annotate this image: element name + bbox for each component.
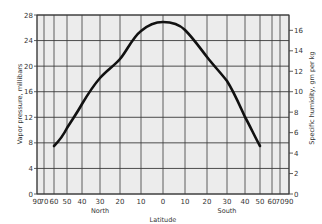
x-axis-ticks: 907060504030201001020304050607090 bbox=[33, 198, 294, 206]
x-tick-label: 0 bbox=[161, 198, 165, 206]
x-tick-label: 60 bbox=[50, 198, 59, 206]
x-label-north: North bbox=[91, 207, 109, 215]
right-y-tick-label: 12 bbox=[294, 68, 303, 76]
x-tick-label: 10 bbox=[181, 198, 190, 206]
x-tick-label: 70 bbox=[276, 198, 285, 206]
left-y-tick-label: 20 bbox=[24, 63, 33, 71]
left-y-tick-label: 28 bbox=[24, 12, 33, 20]
x-tick-label: 50 bbox=[63, 198, 72, 206]
left-y-tick-label: 8 bbox=[29, 139, 33, 147]
right-y-tick-label: 0 bbox=[294, 191, 298, 199]
x-tick-label: 10 bbox=[137, 198, 146, 206]
left-y-tick-label: 24 bbox=[24, 37, 33, 45]
right-y-tick-label: 16 bbox=[294, 27, 303, 35]
left-y-axis-title: Vapor pressure, millibars bbox=[16, 63, 24, 144]
right-y-tick-label: 4 bbox=[294, 150, 299, 158]
x-tick-label: 20 bbox=[203, 198, 212, 206]
right-y-tick-label: 2 bbox=[294, 170, 298, 178]
right-y-tick-label: 14 bbox=[294, 47, 303, 55]
x-tick-label: 90 bbox=[285, 198, 294, 206]
x-tick-label: 40 bbox=[78, 198, 87, 206]
x-tick-label: 70 bbox=[40, 198, 49, 206]
x-label-south: South bbox=[218, 207, 237, 215]
right-y-tick-label: 10 bbox=[294, 88, 303, 96]
left-y-axis-ticks: 0481216202428 bbox=[24, 12, 37, 199]
x-tick-label: 40 bbox=[241, 198, 250, 206]
right-y-axis-title: Specific humidity, gm per kg bbox=[308, 51, 316, 144]
x-tick-label: 20 bbox=[116, 198, 125, 206]
vapor-pressure-chart: 0481216202428 0246810121416 907060504030… bbox=[0, 0, 322, 224]
left-y-tick-label: 16 bbox=[24, 88, 33, 96]
left-y-tick-label: 12 bbox=[24, 114, 33, 122]
x-axis-title: Latitude bbox=[150, 216, 177, 224]
right-y-tick-label: 6 bbox=[294, 129, 299, 137]
left-y-tick-label: 4 bbox=[29, 165, 34, 173]
x-tick-label: 30 bbox=[223, 198, 232, 206]
x-tick-label: 30 bbox=[96, 198, 105, 206]
x-tick-label: 50 bbox=[256, 198, 265, 206]
right-y-axis-ticks: 0246810121416 bbox=[289, 27, 303, 199]
right-y-tick-label: 8 bbox=[294, 109, 298, 117]
